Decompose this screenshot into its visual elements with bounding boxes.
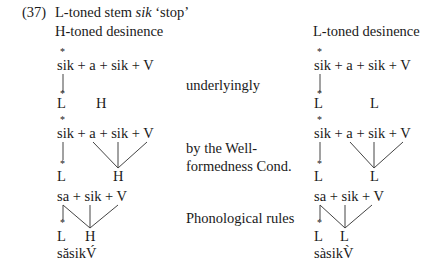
accent-mark: * (60, 115, 65, 125)
accent-mark: * (317, 115, 322, 125)
accent-mark: * (317, 218, 322, 228)
stage-label-underlying: underlyingly (186, 78, 260, 93)
stage-label-wfc-line2: formedness Cond. (186, 159, 292, 174)
accent-mark: * (60, 218, 65, 228)
right-row1-formula: sik + a + sik + V (314, 58, 411, 73)
stage-label-wfc-line1: by the Well- (186, 141, 257, 156)
right-row2-formula: sik + a + sik + V (314, 126, 411, 141)
left-row3-tone-1: L (57, 229, 66, 244)
right-row2-tone-1: L (314, 169, 323, 184)
left-row1-formula: sik + a + sik + V (57, 58, 154, 73)
left-row3-tone-2: H (85, 229, 95, 244)
right-row1-tone-2: L (370, 96, 379, 111)
heading-gloss: ‘stop’ (152, 4, 189, 20)
right-column-title: L-toned desinence (313, 24, 420, 39)
left-row1-tone-1: L (57, 96, 66, 111)
right-row2-tone-2: L (370, 169, 379, 184)
left-surface-form: săsikV́ (57, 246, 96, 261)
left-row2-tone-1: L (57, 169, 66, 184)
accent-mark: * (60, 47, 65, 57)
accent-mark: * (317, 47, 322, 57)
left-row1-tone-2: H (96, 96, 106, 111)
left-row3-formula: sa + sik + V (57, 189, 127, 204)
right-row3-formula: sa + sik + V (314, 189, 384, 204)
example-number: (37) (22, 5, 46, 20)
left-column-title: H-toned desinence (55, 24, 163, 39)
right-row3-tone-1: L (314, 229, 323, 244)
heading-prefix: L-toned stem (55, 4, 136, 20)
left-row2-formula: sik + a + sik + V (57, 126, 154, 141)
heading-word: sik (136, 4, 152, 20)
right-surface-form: sàsikV̀ (314, 246, 353, 261)
right-row3-tone-2: L (340, 229, 349, 244)
right-row1-tone-1: L (314, 96, 323, 111)
example-heading: L-toned stem sik ‘stop’ (55, 5, 189, 20)
stage-label-phonological: Phonological rules (186, 211, 294, 226)
left-row2-tone-2: H (113, 169, 123, 184)
